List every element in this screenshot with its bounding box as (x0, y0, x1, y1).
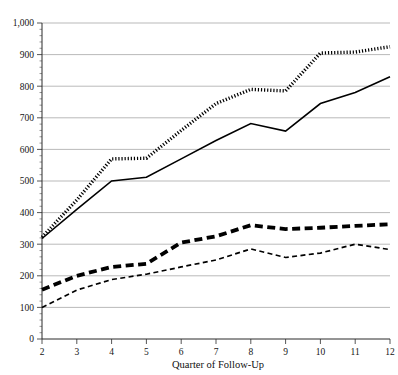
x-axis-tick-label: 8 (248, 347, 253, 357)
y-axis-tick-label: 800 (20, 82, 35, 92)
data-series-series-dotted-upper (42, 47, 390, 238)
chart-figure: 01002003004005006007008009001,000 234567… (0, 0, 398, 375)
x-axis-tick-label: 2 (40, 347, 45, 357)
y-axis-tick-label: 1,000 (13, 18, 35, 28)
x-axis-tick-label: 9 (283, 347, 288, 357)
y-axis-ticks-group (37, 23, 42, 339)
y-axis-tick-label: 100 (20, 303, 35, 313)
data-series-series-solid-upper (42, 77, 390, 239)
x-axis-group (42, 23, 390, 344)
x-axis-tick-label: 4 (109, 347, 114, 357)
x-axis-tick-labels-group: 23456789101112 (40, 347, 395, 357)
x-axis-tick-label: 3 (74, 347, 79, 357)
y-axis-tick-label: 500 (20, 176, 35, 186)
y-axis-tick-label: 700 (20, 113, 35, 123)
x-axis-tick-label: 11 (351, 347, 360, 357)
y-axis-tick-label: 600 (20, 145, 35, 155)
data-series-group (42, 47, 390, 308)
x-axis-tick-label: 12 (385, 347, 395, 357)
y-axis-tick-label: 900 (20, 50, 35, 60)
y-axis-tick-label: 300 (20, 240, 35, 250)
x-axis-tick-label: 7 (214, 347, 219, 357)
x-axis-tick-label: 10 (316, 347, 326, 357)
data-series-series-dashed-thick-lower (42, 224, 390, 289)
line-chart-plot: 01002003004005006007008009001,000 234567… (0, 0, 398, 375)
y-axis-tick-label: 400 (20, 208, 35, 218)
y-axis-tick-labels-group: 01002003004005006007008009001,000 (13, 18, 35, 344)
x-axis-title: Quarter of Follow-Up (172, 359, 264, 370)
gridlines-group (42, 23, 390, 307)
x-axis-tick-label: 6 (179, 347, 184, 357)
y-axis-tick-label: 0 (29, 334, 34, 344)
x-axis-tick-label: 5 (144, 347, 149, 357)
y-axis-tick-label: 200 (20, 271, 35, 281)
